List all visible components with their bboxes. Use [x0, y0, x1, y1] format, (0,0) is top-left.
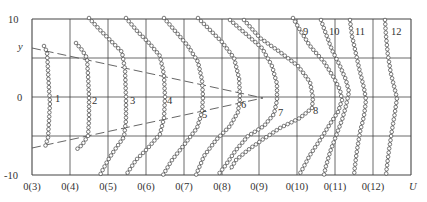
data-point-marker: [273, 109, 277, 113]
series-label-8: 8: [313, 105, 318, 116]
data-point-marker: [230, 122, 234, 126]
data-point-marker: [161, 120, 165, 124]
data-point-marker: [232, 162, 236, 166]
data-point-marker: [123, 66, 127, 70]
data-point-marker: [383, 18, 387, 22]
data-point-marker: [84, 138, 88, 142]
data-point-marker: [313, 146, 317, 150]
data-point-marker: [47, 77, 51, 81]
data-point-marker: [321, 22, 325, 26]
data-point-marker: [124, 87, 128, 91]
data-point-marker: [351, 39, 355, 43]
data-point-marker: [301, 114, 305, 118]
data-point-marker: [323, 169, 327, 173]
data-point-marker: [272, 72, 276, 76]
data-point-marker: [93, 22, 97, 26]
data-point-marker: [253, 130, 257, 134]
data-point-marker: [276, 49, 280, 53]
data-point-marker: [332, 117, 336, 121]
data-point-marker: [201, 105, 205, 109]
data-point-marker: [348, 18, 352, 22]
data-point-marker: [124, 78, 128, 82]
data-point-marker: [299, 171, 303, 175]
data-point-marker: [208, 147, 212, 151]
data-point-marker: [336, 110, 340, 114]
data-point-marker: [362, 113, 366, 117]
data-point-marker: [393, 109, 397, 113]
data-point-marker: [159, 58, 163, 62]
data-point-marker: [387, 56, 391, 60]
data-point-marker: [225, 161, 229, 165]
data-point-marker: [339, 94, 343, 98]
data-point-marker: [389, 134, 393, 138]
data-point-marker: [245, 21, 249, 25]
data-point-marker: [45, 140, 49, 144]
data-point-marker: [258, 140, 262, 144]
data-point-marker: [286, 122, 290, 126]
data-point-marker: [266, 57, 270, 61]
data-point-marker: [203, 154, 207, 158]
data-point-marker: [393, 89, 397, 93]
data-point-marker: [201, 92, 205, 96]
data-point-marker: [304, 112, 308, 116]
data-point-marker: [77, 44, 81, 48]
data-point-marker: [392, 85, 396, 89]
data-point-marker: [87, 105, 91, 109]
data-point-marker: [339, 102, 343, 106]
data-point-marker: [87, 80, 91, 84]
data-point-marker: [355, 55, 359, 59]
data-point-marker: [268, 133, 272, 137]
data-point-marker: [335, 82, 339, 86]
data-point-marker: [223, 165, 227, 169]
data-point-marker: [113, 43, 117, 47]
x-tick-label: 0(12): [362, 181, 385, 193]
data-point-marker: [271, 68, 275, 72]
data-point-marker: [324, 165, 328, 169]
data-point-marker: [159, 128, 163, 132]
data-point-marker: [327, 124, 331, 128]
data-point-marker: [46, 56, 50, 60]
data-point-marker: [334, 114, 338, 118]
data-point-marker: [354, 154, 358, 158]
data-point-marker: [47, 85, 51, 89]
data-point-marker: [235, 147, 239, 151]
data-point-marker: [96, 26, 100, 30]
data-point-marker: [310, 90, 314, 94]
x-tick-labels: 0(3)0(4)0(5)0(6)0(7)0(8)0(9)0(10)0(11)0(…: [23, 181, 385, 193]
data-point-marker: [128, 167, 132, 171]
data-point-marker: [388, 64, 392, 68]
lower-boundary-dashed-line: [32, 98, 263, 148]
data-point-marker: [338, 106, 342, 110]
data-point-marker: [170, 158, 174, 162]
data-point-marker: [354, 51, 358, 55]
data-point-marker: [236, 111, 240, 115]
series-label-4: 4: [167, 95, 173, 106]
data-point-marker: [339, 121, 343, 125]
data-point-marker: [141, 151, 145, 155]
data-point-marker: [263, 39, 267, 43]
data-point-marker: [47, 119, 51, 123]
data-point-marker: [124, 120, 128, 124]
data-point-marker: [181, 39, 185, 43]
data-point-marker: [200, 80, 204, 84]
data-point-marker: [394, 105, 398, 109]
chart: 123456789101112 10 0 -10 y U 0(3)0(4)0(5…: [0, 0, 427, 202]
data-point-marker: [87, 130, 91, 134]
data-point-marker: [364, 101, 368, 105]
data-point-marker: [193, 56, 197, 60]
data-point-marker: [199, 19, 203, 23]
data-point-marker: [262, 49, 266, 53]
data-point-marker: [271, 113, 275, 117]
data-point-marker: [306, 41, 310, 45]
data-point-marker: [331, 50, 335, 54]
data-point-marker: [124, 16, 128, 20]
data-point-marker: [356, 146, 360, 150]
data-point-marker: [194, 173, 198, 177]
data-point-marker: [178, 149, 182, 153]
data-point-marker: [225, 47, 229, 51]
data-point-marker: [333, 137, 337, 141]
data-point-marker: [116, 46, 120, 50]
upper-boundary-dashed-line: [32, 48, 263, 98]
data-point-marker: [162, 74, 166, 78]
data-point-marker: [107, 157, 111, 161]
